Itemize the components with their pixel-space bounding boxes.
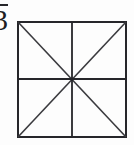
center-point: [70, 77, 73, 80]
figure-canvas: 3: [0, 0, 134, 145]
divided-square-diagram: [0, 0, 134, 145]
